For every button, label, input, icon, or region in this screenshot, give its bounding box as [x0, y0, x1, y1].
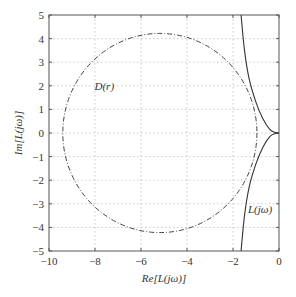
- annotation-d-r: D(r): [94, 80, 115, 93]
- l-jw-upper-branch: [241, 15, 279, 133]
- y-tick-label: −3: [32, 198, 44, 210]
- y-tick-label: 3: [39, 56, 45, 68]
- y-axis-label: Im[L(jω)]: [12, 111, 25, 156]
- y-tick-label: −4: [32, 221, 44, 233]
- axis-ticks: −10−8−6−4−20−5−4−3−2−1012345: [32, 9, 282, 267]
- x-tick-label: −4: [181, 255, 193, 267]
- y-tick-label: 1: [39, 103, 45, 115]
- nyquist-chart: −10−8−6−4−20−5−4−3−2−1012345 Re[L(jω)] I…: [0, 0, 296, 297]
- x-tick-label: −2: [227, 255, 239, 267]
- x-tick-label: 0: [276, 255, 282, 267]
- y-tick-label: −5: [32, 245, 44, 257]
- y-tick-label: 4: [39, 33, 45, 45]
- d-r-circle: [63, 33, 257, 232]
- y-tick-label: 2: [39, 80, 45, 92]
- x-tick-label: −8: [89, 255, 101, 267]
- y-tick-label: −1: [32, 151, 44, 163]
- y-tick-label: 5: [39, 9, 45, 21]
- chart-svg: −10−8−6−4−20−5−4−3−2−1012345 Re[L(jω)] I…: [0, 0, 296, 297]
- annotation-l-jw: L(jω): [247, 203, 273, 216]
- y-tick-label: 0: [39, 127, 45, 139]
- x-axis-label: Re[L(jω)]: [141, 272, 186, 285]
- x-tick-label: −6: [135, 255, 147, 267]
- y-tick-label: −2: [32, 174, 44, 186]
- l-jw-lower-branch: [241, 133, 279, 251]
